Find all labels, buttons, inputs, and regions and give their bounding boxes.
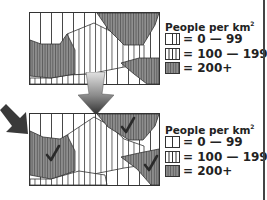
- down-arrow-icon: [78, 72, 114, 116]
- legend-after: People per km2 = 0 — 99 = 100 — 199 = 20…: [165, 119, 263, 179]
- medium-stripes-swatch-icon: [165, 48, 180, 60]
- legend-item-high: = 200+: [165, 164, 263, 179]
- legend-item-low: = 0 — 99: [165, 32, 263, 47]
- sparse-stripes-swatch-icon: [165, 136, 180, 148]
- legend-item-medium: = 100 — 199: [165, 47, 263, 62]
- legend-title: People per km2: [165, 119, 263, 135]
- sparse-stripes-swatch-icon: [165, 33, 180, 45]
- legend-item-low: = 0 — 99: [165, 135, 263, 150]
- legend-item-medium: = 100 — 199: [165, 150, 263, 165]
- dense-stripes-swatch-icon: [165, 165, 180, 177]
- medium-stripes-swatch-icon: [165, 151, 180, 163]
- population-map-after: [29, 113, 160, 186]
- legend-item-high: = 200+: [165, 61, 263, 76]
- frame-border: [263, 0, 265, 200]
- dense-stripes-swatch-icon: [165, 62, 180, 74]
- legend-before: People per km2 = 0 — 99 = 100 — 199 = 20…: [165, 16, 263, 76]
- legend-title: People per km2: [165, 16, 263, 32]
